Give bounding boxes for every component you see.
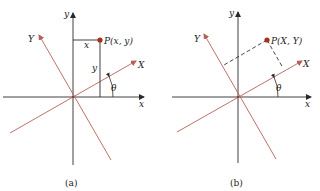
panel-b: y x X Y P(X, Y) θ (b) bbox=[172, 8, 311, 188]
x-axis-label: x bbox=[305, 99, 310, 109]
caption-b: (b) bbox=[230, 178, 243, 188]
y-segment-label: y bbox=[91, 63, 98, 73]
panel-a: y x X Y P(x, y) x y θ (a) bbox=[3, 9, 145, 188]
x-axis-label: x bbox=[139, 99, 144, 109]
origin-dot bbox=[237, 96, 239, 98]
coordinate-rotation-figure: y x X Y P(x, y) x y θ (a) y x X Y P(X, Y… bbox=[0, 0, 320, 191]
y-projection-dashed bbox=[224, 40, 267, 65]
rotated-y-axis-label: Y bbox=[194, 34, 201, 44]
rotated-y-axis-label: Y bbox=[28, 34, 35, 44]
caption-a: (a) bbox=[65, 178, 77, 188]
point-p bbox=[97, 37, 102, 42]
point-label: P(X, Y) bbox=[270, 36, 303, 46]
y-axis-label: y bbox=[63, 9, 70, 19]
point-p bbox=[264, 37, 269, 42]
origin-dot bbox=[72, 96, 74, 98]
y-axis-label: y bbox=[228, 8, 235, 18]
rotated-x-axis-label: X bbox=[302, 59, 310, 69]
angle-label: θ bbox=[111, 83, 117, 93]
angle-label: θ bbox=[276, 83, 282, 93]
rotated-x-axis-label: X bbox=[137, 60, 145, 70]
rotated-y-axis bbox=[204, 34, 276, 159]
x-segment-label: x bbox=[84, 40, 89, 50]
point-label: P(x, y) bbox=[103, 36, 133, 46]
